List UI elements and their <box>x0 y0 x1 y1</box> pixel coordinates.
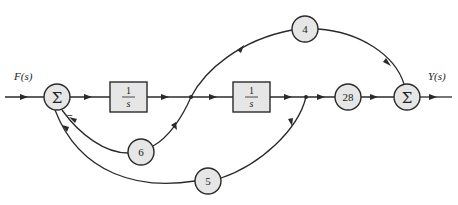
summing-junction-2: Σ <box>394 84 420 110</box>
wire-branch1-g6 <box>153 97 191 146</box>
forward-path <box>5 94 452 100</box>
gain-node-5: 5 <box>195 168 221 194</box>
arrow-icon <box>284 94 292 100</box>
sigma-symbol: Σ <box>52 89 63 107</box>
gain-node-6: 6 <box>128 139 154 165</box>
block2-numerator: 1 <box>249 85 254 96</box>
arrow-icon <box>383 58 391 66</box>
integrator-block-2: 1 s <box>233 82 270 112</box>
gain-node-28: 28 <box>335 84 361 110</box>
arrow-icon <box>317 94 325 100</box>
gain-node-4: 4 <box>292 16 318 42</box>
arrow-icon <box>84 94 92 100</box>
arrow-icon <box>370 94 378 100</box>
svg-text:28: 28 <box>343 91 355 103</box>
minus-sign-1: − <box>67 110 73 121</box>
arrow-icon <box>209 94 217 100</box>
svg-text:6: 6 <box>138 146 144 158</box>
sigma-symbol: Σ <box>402 89 413 107</box>
input-label: F(s) <box>13 70 33 83</box>
block-diagram: Σ − 1 s 1 s 4 28 6 5 Σ F(s) Y(s) <box>0 0 458 205</box>
arrow-icon <box>429 94 437 100</box>
arrow-icon <box>161 94 169 100</box>
block1-numerator: 1 <box>126 85 131 96</box>
svg-text:4: 4 <box>302 23 308 35</box>
block2-denominator: s <box>250 98 254 109</box>
output-label: Y(s) <box>428 70 446 83</box>
wire-g4-sum2 <box>318 29 404 84</box>
integrator-block-1: 1 s <box>110 82 147 112</box>
summing-junction-1: Σ <box>44 84 70 110</box>
block1-denominator: s <box>127 98 131 109</box>
arrow-icon <box>20 94 28 100</box>
svg-text:5: 5 <box>205 175 211 187</box>
wire-g5-sum1 <box>55 110 195 183</box>
arrow-icon <box>237 45 244 53</box>
